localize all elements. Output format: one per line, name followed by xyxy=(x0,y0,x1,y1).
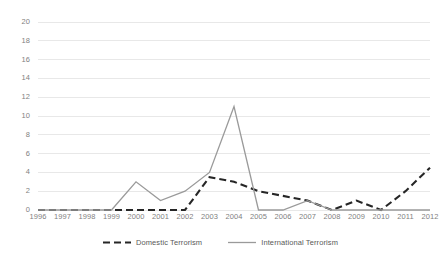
y-axis-tick-label: 18 xyxy=(21,37,30,45)
x-axis-tick-label: 2000 xyxy=(127,212,144,222)
y-axis-tick-label: 20 xyxy=(21,18,30,26)
plot-svg xyxy=(38,22,430,210)
y-axis-tick-label: 14 xyxy=(21,74,30,82)
x-axis-tick-label: 2009 xyxy=(348,212,365,222)
x-axis-tick-label: 2004 xyxy=(225,212,242,222)
chart-legend: Domestic TerrorismInternational Terroris… xyxy=(0,238,441,247)
x-axis: 1996199719981999200020012002200320042005… xyxy=(38,212,430,226)
line-chart: 02468101214161820 1996199719981999200020… xyxy=(0,0,441,264)
y-axis-tick-label: 16 xyxy=(21,56,30,64)
legend-item-domestic-terrorism[interactable]: Domestic Terrorism xyxy=(103,238,202,247)
x-axis-tick-label: 2002 xyxy=(176,212,193,222)
y-axis-tick-label: 10 xyxy=(21,112,30,120)
x-axis-tick-label: 1998 xyxy=(78,212,95,222)
x-axis-tick-label: 2005 xyxy=(250,212,267,222)
x-axis-tick-label: 2003 xyxy=(201,212,218,222)
x-axis-tick-label: 1997 xyxy=(54,212,71,222)
x-axis-tick-label: 2007 xyxy=(299,212,316,222)
x-axis-tick-label: 1996 xyxy=(29,212,46,222)
plot-area xyxy=(38,22,430,210)
legend-swatch-dashed-line-icon xyxy=(103,238,131,247)
y-axis-tick-label: 8 xyxy=(26,131,30,139)
y-axis-tick-label: 12 xyxy=(21,93,30,101)
series-line-international-terrorism xyxy=(38,107,430,210)
y-axis: 02468101214161820 xyxy=(0,22,34,210)
x-axis-tick-label: 2006 xyxy=(274,212,291,222)
x-axis-tick-label: 2011 xyxy=(397,212,414,222)
y-axis-tick-label: 2 xyxy=(26,187,30,195)
legend-item-international-terrorism[interactable]: International Terrorism xyxy=(228,238,338,247)
legend-swatch-solid-line-icon xyxy=(228,238,256,247)
y-axis-tick-label: 6 xyxy=(26,150,30,158)
series-line-domestic-terrorism xyxy=(38,168,430,210)
legend-label: International Terrorism xyxy=(261,238,338,247)
x-axis-tick-label: 1999 xyxy=(103,212,120,222)
x-axis-tick-label: 2012 xyxy=(421,212,438,222)
y-axis-tick-label: 4 xyxy=(26,168,30,176)
series-lines xyxy=(38,107,430,210)
x-axis-tick-label: 2001 xyxy=(152,212,169,222)
x-axis-tick-label: 2008 xyxy=(323,212,340,222)
legend-label: Domestic Terrorism xyxy=(136,238,202,247)
x-axis-tick-label: 2010 xyxy=(372,212,389,222)
